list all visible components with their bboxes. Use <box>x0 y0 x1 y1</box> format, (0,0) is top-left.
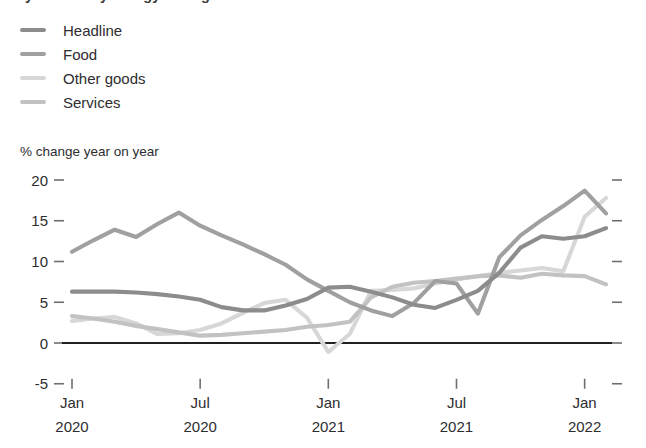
chart-plot-area: 20151050-5Jan2020Jul2020Jan2021Jul2021Ja… <box>0 0 646 448</box>
y-axis-label: -5 <box>35 375 48 392</box>
x-axis-label-year: 2021 <box>440 418 473 435</box>
line-chart-svg: 20151050-5Jan2020Jul2020Jan2021Jul2021Ja… <box>0 0 646 448</box>
x-axis-label-month: Jan <box>60 394 84 411</box>
series-line-services <box>72 274 606 336</box>
x-axis-label-year: 2021 <box>312 418 345 435</box>
x-axis-label-year: 2020 <box>183 418 216 435</box>
y-axis-label: 0 <box>40 335 48 352</box>
x-axis-label-month: Jan <box>573 394 597 411</box>
x-axis-label-month: Jul <box>191 394 210 411</box>
y-axis-label: 20 <box>31 172 48 189</box>
x-axis-label-year: 2020 <box>55 418 88 435</box>
x-axis-label-month: Jan <box>316 394 340 411</box>
y-axis-label: 10 <box>31 253 48 270</box>
x-axis-label-month: Jul <box>447 394 466 411</box>
x-axis-label-year: 2022 <box>568 418 601 435</box>
series-line-food <box>72 191 606 317</box>
y-axis-label: 15 <box>31 212 48 229</box>
y-axis-label: 5 <box>40 294 48 311</box>
chart-page: fy-Jnm-nnuy-Lncigy-mn-ngoods-Lnn-0 Headl… <box>0 0 646 448</box>
